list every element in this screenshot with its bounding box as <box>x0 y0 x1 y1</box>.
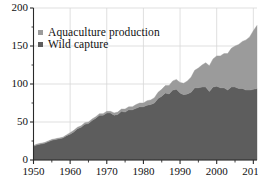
legend-item-wild-capture: Wild capture <box>38 38 160 50</box>
fisheries-production-chart: Aquaculture production Wild capture 0501… <box>0 0 258 183</box>
x-tick-label: 1990 <box>160 166 200 177</box>
legend-swatch-aquaculture <box>38 30 43 35</box>
x-tick-label: 1980 <box>123 166 163 177</box>
legend-label-aquaculture: Aquaculture production <box>48 26 160 38</box>
chart-legend: Aquaculture production Wild capture <box>38 26 160 50</box>
y-tick-label: 50 <box>0 116 28 127</box>
x-tick-label: 2000 <box>197 166 237 177</box>
x-tick-label: 1970 <box>87 166 127 177</box>
legend-swatch-wild-capture <box>38 42 43 47</box>
legend-label-wild-capture: Wild capture <box>48 38 108 50</box>
y-tick-label: 0 <box>0 154 28 165</box>
y-tick-label: 150 <box>0 40 28 51</box>
x-tick-label: 1960 <box>50 166 90 177</box>
y-tick-label: 100 <box>0 78 28 89</box>
x-tick-label: 2010 <box>233 166 258 177</box>
legend-item-aquaculture: Aquaculture production <box>38 26 160 38</box>
y-tick-label: 200 <box>0 2 28 13</box>
x-tick-label: 1950 <box>14 166 54 177</box>
